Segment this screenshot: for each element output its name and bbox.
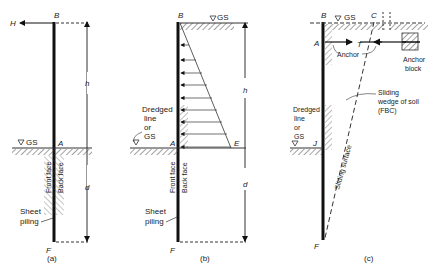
svg-text:B: B: [321, 11, 327, 20]
svg-text:line: line: [144, 114, 157, 123]
force-h: H: [10, 19, 16, 28]
panel-a: GS B H A F h d Front face Back face Shee…: [10, 11, 92, 263]
svg-text:line: line: [294, 115, 305, 122]
svg-text:Back face: Back face: [181, 162, 188, 193]
svg-text:wedge of soil: wedge of soil: [377, 98, 419, 106]
sliding-wedge-label: Sliding: [378, 89, 399, 97]
svg-text:Front face: Front face: [169, 161, 176, 193]
svg-text:C: C: [371, 11, 377, 20]
svg-text:Sheet: Sheet: [145, 207, 167, 216]
anchor-block-label: Anchor: [403, 56, 426, 63]
svg-text:Dredged: Dredged: [293, 106, 320, 114]
anchor-label: Anchor: [337, 51, 360, 58]
dim-h: h: [85, 79, 90, 88]
sheet-piling-diagram: GS B H A F h d Front face Back face Shee…: [0, 0, 435, 266]
caption-c: (c): [364, 254, 374, 263]
front-face-label: Front face: [45, 161, 52, 193]
dim-d: d: [85, 183, 90, 192]
svg-text:or: or: [294, 124, 301, 131]
sheet-piling-label: Sheet: [20, 207, 42, 216]
svg-text:piling: piling: [20, 217, 39, 226]
gs-label: GS: [26, 138, 38, 147]
svg-text:h: h: [243, 86, 248, 95]
caption-a: (a): [47, 254, 57, 263]
water-level-icon: [210, 16, 216, 21]
back-face-label: Back face: [57, 162, 64, 193]
svg-text:F: F: [314, 242, 320, 251]
svg-text:GS: GS: [344, 13, 356, 22]
svg-text:B: B: [178, 11, 184, 20]
svg-text:block: block: [405, 65, 422, 72]
svg-text:or: or: [144, 123, 151, 132]
svg-text:GS: GS: [217, 13, 229, 22]
svg-text:GS: GS: [294, 133, 304, 140]
point-b: B: [54, 11, 60, 20]
svg-text:(FBC): (FBC): [378, 107, 397, 115]
panel-b: GS Dredged line or GS B A E: [130, 11, 248, 263]
sliding-surface-label: Sliding surface: [333, 144, 353, 190]
svg-text:E: E: [234, 139, 240, 148]
svg-text:A: A: [313, 39, 319, 48]
svg-text:A: A: [169, 139, 175, 148]
svg-text:J: J: [312, 139, 318, 148]
caption-b: (b): [200, 254, 210, 263]
svg-text:GS: GS: [144, 132, 156, 141]
panel-c: GS A T Anchor Anchor block Sliding wedge…: [290, 11, 428, 263]
svg-text:piling: piling: [145, 217, 164, 226]
point-a: A: [57, 139, 63, 148]
svg-text:F: F: [170, 246, 176, 255]
svg-text:d: d: [243, 180, 248, 189]
dredged-line-label: Dredged: [142, 105, 173, 114]
water-level-icon: [18, 140, 24, 145]
force-t: T: [357, 40, 363, 49]
